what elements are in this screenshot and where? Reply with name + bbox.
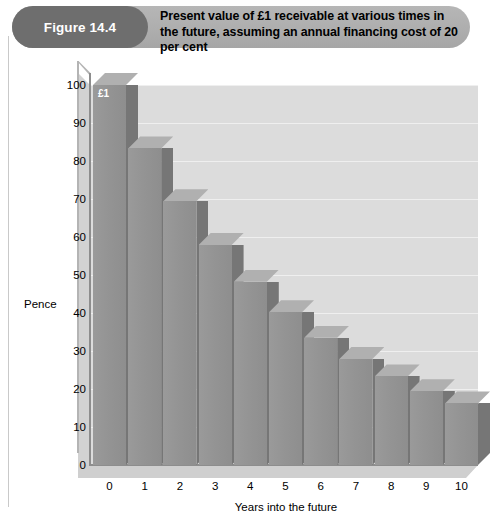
y-tick-label: 80 bbox=[52, 155, 86, 167]
page-bleed-caption bbox=[150, 496, 502, 506]
y-tick-label: 10 bbox=[52, 421, 86, 433]
bar bbox=[339, 359, 372, 465]
x-tick-label: 6 bbox=[301, 480, 341, 492]
y-tick-label: 30 bbox=[52, 345, 86, 357]
y-tick-label: 0 bbox=[52, 459, 86, 471]
bar-value-annotation: £1 bbox=[98, 88, 109, 99]
y-tick-label: 20 bbox=[52, 383, 86, 395]
x-tick-label: 2 bbox=[160, 480, 200, 492]
bar-front-face bbox=[339, 359, 372, 465]
x-tick-label: 8 bbox=[371, 480, 411, 492]
y-tick-label: 100 bbox=[52, 79, 86, 91]
bar-front-face bbox=[93, 85, 126, 465]
y-tick-label: 40 bbox=[52, 307, 86, 319]
bar bbox=[234, 282, 267, 465]
x-tick-label: 5 bbox=[266, 480, 306, 492]
bar bbox=[128, 148, 161, 465]
y-axis-ticks: 0102030405060708090100 bbox=[44, 52, 86, 492]
bar bbox=[163, 201, 196, 465]
x-tick-label: 10 bbox=[442, 480, 482, 492]
bar bbox=[304, 338, 337, 465]
bar-front-face bbox=[410, 391, 443, 465]
bar bbox=[375, 376, 408, 465]
figure-title: Present value of £1 receivable at variou… bbox=[160, 9, 460, 56]
bar-top-face bbox=[93, 73, 138, 85]
bar-front-face bbox=[375, 376, 408, 465]
x-tick-label: 7 bbox=[336, 480, 376, 492]
x-tick-label: 4 bbox=[230, 480, 270, 492]
bar-front-face bbox=[199, 245, 232, 465]
bar bbox=[199, 245, 232, 465]
bar-front-face bbox=[445, 403, 478, 465]
bar-front-face bbox=[304, 338, 337, 465]
x-tick-label: 3 bbox=[195, 480, 235, 492]
bar-chart: £1 0102030405060708090100 Pence 01234567… bbox=[0, 52, 502, 492]
bar-front-face bbox=[128, 148, 161, 465]
bar bbox=[269, 312, 302, 465]
figure-number-label: Figure 14.4 bbox=[44, 20, 116, 35]
y-tick-label: 50 bbox=[52, 269, 86, 281]
y-axis-label: Pence bbox=[24, 298, 57, 310]
bar-front-face bbox=[234, 282, 267, 465]
y-tick-label: 70 bbox=[52, 193, 86, 205]
bar bbox=[445, 403, 478, 465]
y-tick-label: 90 bbox=[52, 117, 86, 129]
bar-front-face bbox=[163, 201, 196, 465]
bar-side-face bbox=[478, 403, 490, 465]
x-tick-label: 9 bbox=[406, 480, 446, 492]
figure-number-pill: Figure 14.4 bbox=[12, 6, 148, 48]
bar: £1 bbox=[93, 85, 126, 465]
x-tick-label: 1 bbox=[125, 480, 165, 492]
y-tick-label: 60 bbox=[52, 231, 86, 243]
bar bbox=[410, 391, 443, 465]
bar-front-face bbox=[269, 312, 302, 465]
x-tick-label: 0 bbox=[90, 480, 130, 492]
